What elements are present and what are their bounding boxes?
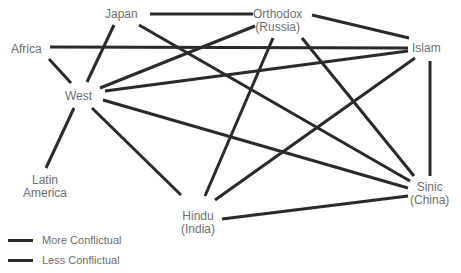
edge-west-latin_america (46, 108, 74, 168)
node-japan: Japan (105, 8, 138, 21)
node-label: (India) (181, 223, 215, 236)
edge-hindu-sinic (222, 196, 408, 219)
node-label: (China) (410, 194, 449, 207)
legend: More Conflictual Less Conflictual (8, 230, 121, 270)
node-label: West (65, 90, 92, 103)
node-label: Africa (11, 43, 42, 56)
legend-item-more-conflictual: More Conflictual (8, 230, 121, 250)
edge-west-islam (105, 51, 408, 91)
node-orthodox: Orthodox(Russia) (253, 8, 302, 34)
edge-west-hindu (92, 108, 181, 195)
edge-africa-islam (50, 47, 408, 48)
edge-orthodox-hindu (205, 38, 273, 196)
legend-line-icon (8, 259, 33, 262)
edge-africa-west (49, 59, 71, 83)
edge-islam-hindu (215, 58, 415, 200)
edge-orthodox-islam (312, 15, 409, 38)
legend-item-less-conflictual: Less Conflictual (8, 250, 121, 270)
edge-japan-west (87, 25, 114, 82)
node-africa: Africa (11, 43, 42, 56)
node-west: West (65, 90, 92, 103)
node-sinic: Sinic(China) (410, 181, 449, 207)
node-hindu: Hindu(India) (181, 210, 215, 236)
node-label: Islam (412, 42, 441, 55)
legend-label: More Conflictual (42, 234, 121, 246)
node-latin-america: LatinAmerica (23, 174, 67, 200)
node-label: Japan (105, 8, 138, 21)
node-label: America (23, 187, 67, 200)
node-label: (Russia) (253, 21, 302, 34)
legend-label: Less Conflictual (42, 254, 120, 266)
legend-line-icon (8, 239, 33, 242)
node-islam: Islam (412, 42, 441, 55)
